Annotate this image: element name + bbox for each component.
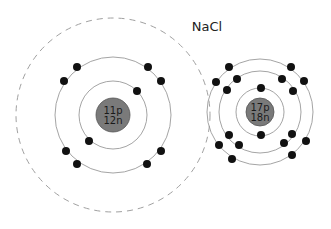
diagram-title: NaCl — [192, 19, 222, 34]
electron — [280, 139, 288, 147]
electron — [302, 137, 310, 145]
electron — [287, 63, 295, 71]
electron — [157, 147, 165, 155]
electron — [73, 160, 81, 168]
electron — [225, 63, 233, 71]
nacl-diagram: NaCl 11p12n 17p18n — [0, 0, 331, 229]
electron — [235, 141, 243, 149]
chlorine-atom: 17p18n — [207, 59, 313, 165]
neutron-count: 12n — [103, 115, 122, 126]
sodium-atom: 11p12n — [16, 18, 210, 212]
electron — [60, 77, 68, 85]
electron — [257, 84, 265, 92]
electron — [144, 63, 152, 71]
electron — [257, 131, 265, 139]
electron — [157, 77, 165, 85]
electron — [143, 160, 151, 168]
electron — [133, 87, 141, 95]
electron — [233, 75, 241, 83]
electron — [223, 86, 231, 94]
electron — [228, 155, 236, 163]
electron — [288, 151, 296, 159]
electron — [212, 78, 220, 86]
electron — [289, 87, 297, 95]
electron — [85, 137, 93, 145]
electron — [225, 131, 233, 139]
electron — [300, 77, 308, 85]
electron — [62, 147, 70, 155]
electron — [278, 75, 286, 83]
electron — [73, 63, 81, 71]
electron — [288, 130, 296, 138]
neutron-count: 18n — [250, 112, 269, 123]
electron — [215, 141, 223, 149]
